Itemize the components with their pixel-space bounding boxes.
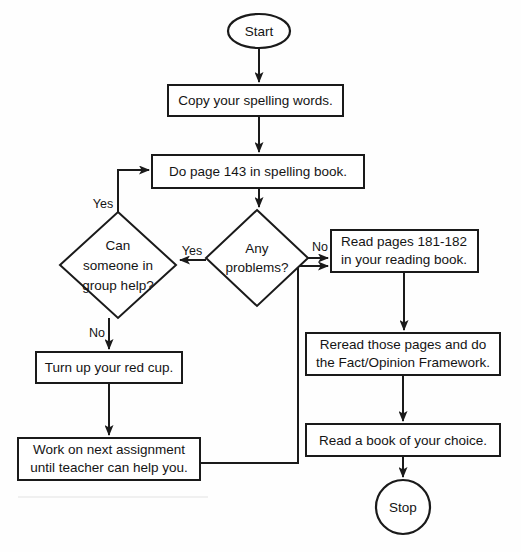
do-page-label: Do page 143 in spelling book.: [169, 164, 347, 179]
edge-label-problems-yes: Yes: [182, 244, 202, 258]
group-help-label-line-3: group help?: [82, 278, 153, 293]
node-start[interactable]: Start: [228, 14, 290, 48]
stop-label: Stop: [389, 500, 417, 515]
node-do-page[interactable]: Do page 143 in spelling book.: [152, 155, 364, 188]
edge-label-grouphelp-yes: Yes: [93, 197, 113, 211]
any-problems-label-line-2: problems?: [225, 260, 288, 275]
next-assignment-label-line-1: Work on next assignment: [33, 442, 185, 457]
next-assignment-label-line-2: until teacher can help you.: [30, 460, 188, 475]
node-copy-words[interactable]: Copy your spelling words.: [168, 85, 343, 116]
any-problems-label-line-1: Any: [245, 241, 269, 256]
node-read-pages[interactable]: Read pages 181-182 in your reading book.: [331, 230, 478, 272]
group-help-label-line-2: someone in: [83, 258, 153, 273]
node-reread-pages[interactable]: Reread those pages and do the Fact/Opini…: [306, 333, 500, 375]
reread-pages-label-line-1: Reread those pages and do: [320, 337, 487, 352]
group-help-label-line-1: Can: [106, 238, 131, 253]
flowchart-canvas: can someone in group help? --> read page…: [0, 0, 521, 552]
read-choice-label: Read a book of your choice.: [319, 433, 487, 448]
edge-grouphelp-yes-to-dopage: [118, 170, 149, 212]
node-stop[interactable]: Stop: [376, 480, 430, 534]
node-group-help[interactable]: Can someone in group help?: [60, 212, 176, 318]
node-any-problems[interactable]: Any problems?: [206, 210, 308, 306]
edge-label-grouphelp-no: No: [89, 326, 105, 340]
turn-cup-label: Turn up your red cup.: [45, 360, 174, 375]
any-problems-diamond: [206, 210, 308, 306]
edge-label-problems-no: No: [312, 240, 328, 254]
reread-pages-label-line-2: the Fact/Opinion Framework.: [316, 355, 490, 370]
node-read-choice[interactable]: Read a book of your choice.: [306, 424, 500, 456]
read-pages-label-line-2: in your reading book.: [341, 252, 467, 267]
flowchart-svg: can someone in group help? --> read page…: [0, 0, 521, 552]
copy-words-label: Copy your spelling words.: [178, 93, 333, 108]
read-pages-label-line-1: Read pages 181-182: [341, 234, 467, 249]
start-label: Start: [245, 24, 274, 39]
node-turn-cup[interactable]: Turn up your red cup.: [36, 352, 182, 383]
node-next-assignment[interactable]: Work on next assignment until teacher ca…: [18, 438, 200, 480]
